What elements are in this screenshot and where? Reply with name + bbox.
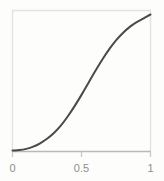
x-tick-label-0: 0 — [9, 162, 15, 174]
x-tick-label-1: 1 — [147, 162, 153, 174]
chart-canvas: 0 0.5 1 — [0, 0, 164, 181]
plot-frame — [13, 10, 152, 151]
sigmoid-curve-figure: 0 0.5 1 — [0, 0, 164, 181]
sigmoid-curve-line — [13, 15, 151, 151]
x-tick-label-0-5: 0.5 — [74, 162, 89, 174]
chart-page: 0 0.5 1 — [0, 0, 164, 181]
x-axis-ticks — [13, 152, 151, 158]
